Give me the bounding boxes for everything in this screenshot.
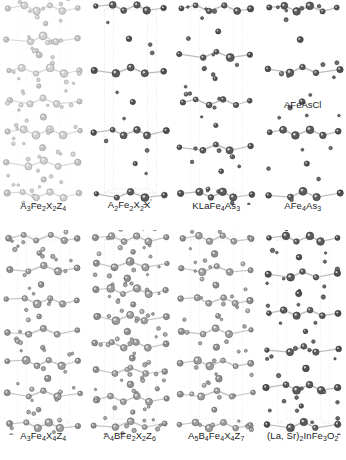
- structure-panel-4: AFeAsClAFe4As3: [260, 0, 346, 230]
- crystal-structure-2: [87, 0, 174, 205]
- crystal-lattice-svg: [173, 230, 260, 435]
- crystal-lattice-svg: [87, 0, 174, 205]
- crystal-structure-8: [260, 230, 346, 435]
- panel-row-bottom: A3Fe4X4Z4A4BFe2X2Z6A5B4Fe4X4Z7(La, Sr)2I…: [0, 230, 346, 460]
- crystal-structure-figure: A3Fe2X2Z4A2Fe2X2X′KLaFe4As3AFeAsClAFe4As…: [0, 0, 346, 460]
- structure-panel-8: (La, Sr)2InFe3O2: [260, 230, 346, 460]
- crystal-lattice-svg: [173, 0, 260, 205]
- panel-caption-1: A3Fe2X2Z4: [0, 201, 87, 211]
- panel-caption-7: A5B4Fe4X4Z7: [173, 431, 260, 441]
- structure-panel-3: KLaFe4As3: [173, 0, 260, 230]
- panel-caption-6: A4BFe2X2Z6: [87, 431, 174, 441]
- structure-panel-7: A5B4Fe4X4Z7: [173, 230, 260, 460]
- crystal-structure-3: [173, 0, 260, 205]
- crystal-lattice-svg: [87, 230, 174, 435]
- crystal-structure-7: [173, 230, 260, 435]
- structure-panel-6: A4BFe2X2Z6: [87, 230, 174, 460]
- crystal-structure-6: [87, 230, 174, 435]
- inline-structure-label: AFeAsCl: [260, 100, 346, 110]
- panel-caption-5: A3Fe4X4Z4: [0, 431, 87, 441]
- panel-caption-3: KLaFe4As3: [173, 201, 260, 211]
- crystal-structure-1: [0, 0, 87, 205]
- panel-caption-2: A2Fe2X2X′: [87, 198, 174, 210]
- structure-panel-1: A3Fe2X2Z4: [0, 0, 87, 230]
- crystal-lattice-svg: [0, 230, 87, 435]
- crystal-lattice-svg: [260, 230, 346, 435]
- panel-caption-4: AFe4As3: [260, 201, 346, 211]
- panel-row-top: A3Fe2X2Z4A2Fe2X2X′KLaFe4As3AFeAsClAFe4As…: [0, 0, 346, 230]
- crystal-structure-5: [0, 230, 87, 435]
- structure-panel-2: A2Fe2X2X′: [87, 0, 174, 230]
- panel-caption-8: (La, Sr)2InFe3O2: [260, 431, 346, 441]
- structure-panel-5: A3Fe4X4Z4: [0, 230, 87, 460]
- crystal-lattice-svg: [0, 0, 87, 205]
